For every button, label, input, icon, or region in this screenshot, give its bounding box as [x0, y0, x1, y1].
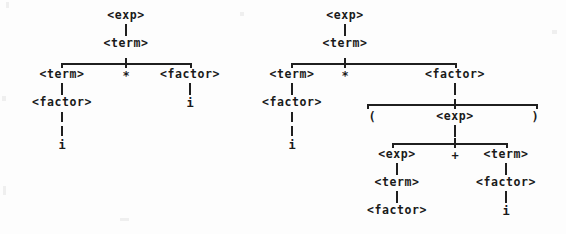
scan-speck — [120, 218, 129, 221]
branch-tick-right-right — [455, 63, 457, 68]
branch-tick-left-left — [61, 63, 63, 68]
node-i-right-left: i — [186, 97, 193, 109]
scan-speck — [552, 30, 557, 34]
branch-tick-right-left — [190, 63, 192, 68]
scan-speck — [2, 96, 6, 101]
branch-tick-exp-inner — [454, 99, 456, 109]
node-times-operator-left: * — [122, 70, 129, 82]
node-rparen-right: ) — [531, 111, 538, 123]
branch-bar-addition — [393, 143, 507, 145]
node-i-bottom-right: i — [502, 205, 509, 217]
scan-speck — [3, 186, 6, 195]
branch-tick-center-left — [125, 58, 127, 68]
scan-speck — [240, 12, 244, 16]
node-plus-operator-right: + — [451, 150, 458, 162]
node-factor-bottom-right: <factor> — [367, 205, 427, 217]
node-term-addend-right: <term> — [483, 149, 528, 161]
edge-term-to-factor-right — [291, 83, 293, 95]
parse-tree-figure: <exp> <term> <term> * <factor> <factor> … — [0, 0, 566, 234]
edge-exp-to-term-left — [125, 24, 127, 36]
node-factor-left-right: <factor> — [262, 97, 322, 109]
branch-bar-paren-group — [368, 104, 537, 106]
edge-exp-addend-to-term — [396, 163, 398, 175]
node-factor-paren-right: <factor> — [425, 69, 485, 81]
edge-term-to-factor-left — [61, 83, 63, 95]
node-term-child-left: <term> — [39, 69, 84, 81]
branch-tick-addend-left — [392, 143, 394, 148]
edge-factor-to-paren-group — [454, 83, 456, 95]
branch-tick-addend-right — [506, 143, 508, 148]
scan-speck — [6, 2, 9, 8]
node-term-left: <term> — [103, 38, 148, 50]
node-lparen-right: ( — [368, 111, 375, 123]
edge-factor-to-i-left-seg1 — [61, 112, 63, 122]
node-exp-inner-right: <exp> — [436, 111, 474, 123]
branch-tick-left-right — [291, 63, 293, 68]
edge-factor-to-i-left-seg2 — [61, 126, 63, 136]
node-times-operator-right: * — [341, 70, 348, 82]
node-term-inner-right: <term> — [374, 177, 419, 189]
node-exp-root-left: <exp> — [107, 10, 145, 22]
branch-tick-rparen — [536, 104, 538, 109]
edge-exp-to-term-right — [344, 24, 346, 36]
node-exp-root-right: <exp> — [326, 10, 364, 22]
node-i-left-right: i — [288, 139, 295, 151]
edge-term-addend-to-factor — [505, 163, 507, 175]
node-factor-left-left: <factor> — [32, 97, 92, 109]
branch-bar-term-right — [292, 63, 456, 65]
node-exp-addend-right: <exp> — [378, 149, 416, 161]
node-i-left-left: i — [58, 139, 65, 151]
edge-factor-to-i-right-seg2 — [291, 126, 293, 136]
branch-tick-plus — [454, 138, 456, 148]
branch-tick-center-right — [344, 58, 346, 68]
node-factor-right-left: <factor> — [160, 69, 220, 81]
edge-term-to-factor-addend — [396, 191, 398, 203]
edge-factor-to-i-right-seg1 — [291, 112, 293, 122]
node-term-right: <term> — [322, 38, 367, 50]
edge-factor-to-i-addend — [505, 191, 507, 203]
node-factor-inner-right: <factor> — [476, 177, 536, 189]
node-term-child-right: <term> — [269, 69, 314, 81]
edge-factor-to-i-right-left — [189, 83, 191, 95]
edge-exp-to-addition — [454, 125, 456, 137]
branch-tick-lparen — [367, 104, 369, 109]
